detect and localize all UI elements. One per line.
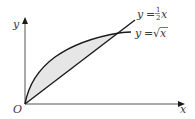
svg-text:x: x: [160, 27, 167, 40]
x-axis-label: x: [180, 103, 187, 116]
svg-text:=: =: [144, 27, 153, 40]
svg-text:2: 2: [156, 14, 160, 22]
curve-sqrt-x: [25, 32, 131, 104]
label-curve-sqrt-x: y = √ x: [134, 27, 168, 40]
svg-text:1: 1: [156, 6, 160, 14]
svg-text:x: x: [161, 8, 168, 21]
svg-text:y: y: [136, 8, 144, 21]
svg-text:y: y: [134, 27, 142, 40]
y-axis-arrow-icon: [22, 17, 28, 24]
y-axis-label: y: [12, 18, 20, 31]
svg-text:=: =: [146, 8, 155, 21]
label-line-half-x: y = 1 2 x: [136, 6, 168, 22]
origin-label: O: [13, 103, 22, 116]
graph-figure: y O x y = 1 2 x y = √ x: [0, 0, 195, 119]
